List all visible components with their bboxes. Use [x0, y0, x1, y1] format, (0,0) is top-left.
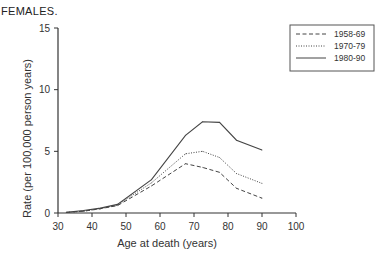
series-line-1980-90 [67, 122, 263, 213]
x-tick-label: 70 [188, 221, 200, 232]
legend-label: 1970-79 [334, 41, 365, 51]
series-line-1958-69 [67, 164, 263, 213]
data-point [185, 163, 186, 164]
x-tick-label: 40 [86, 221, 98, 232]
y-tick-label: 15 [39, 23, 51, 34]
x-tick-label: 90 [256, 221, 268, 232]
data-point [236, 188, 237, 189]
legend-label: 1958-69 [334, 29, 365, 39]
line-chart: 30405060708090100051015Age at death (yea… [0, 0, 379, 257]
data-point [202, 167, 203, 168]
y-tick-label: 0 [44, 208, 50, 219]
x-axis-title: Age at death (years) [117, 237, 217, 249]
data-point [261, 198, 262, 199]
y-tick-label: 10 [39, 84, 51, 95]
data-point [219, 157, 220, 158]
data-point [185, 135, 186, 136]
data-point [151, 185, 152, 186]
x-tick-label: 80 [222, 221, 234, 232]
x-tick-label: 30 [52, 221, 64, 232]
x-tick-label: 60 [154, 221, 166, 232]
x-tick-label: 100 [288, 221, 305, 232]
y-axis-title: Rate (per 100,000 person years) [21, 59, 33, 218]
x-tick-label: 50 [120, 221, 132, 232]
data-point [219, 122, 220, 123]
series-line-1970-79 [67, 151, 263, 212]
series-layer [66, 121, 263, 213]
data-point [202, 151, 203, 152]
y-tick-label: 5 [44, 146, 50, 157]
data-point [185, 153, 186, 154]
data-point [117, 204, 118, 205]
data-point [100, 207, 101, 208]
data-point [151, 179, 152, 180]
data-point [261, 150, 262, 151]
data-point [151, 182, 152, 183]
data-point [219, 172, 220, 173]
data-point [202, 121, 203, 122]
data-point [236, 140, 237, 141]
legend: 1958-691970-791980-90 [290, 25, 374, 71]
legend-label: 1980-90 [334, 53, 365, 63]
data-point [236, 173, 237, 174]
data-point [66, 212, 67, 213]
data-point [261, 183, 262, 184]
data-point [83, 210, 84, 211]
axes: 30405060708090100051015Age at death (yea… [21, 23, 305, 250]
